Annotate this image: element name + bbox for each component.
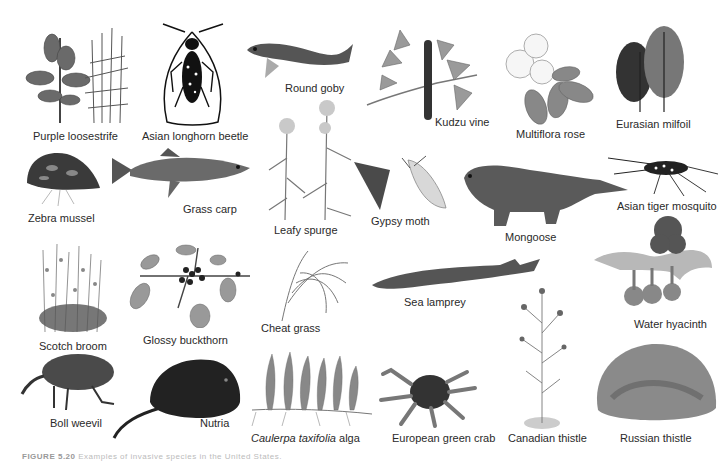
leafy-spurge-illustration [263,98,358,223]
figure-caption: FIGURE 5.20 Examples of invasive species… [22,452,282,461]
round-goby-illustration [245,38,355,83]
species-label: Water hyacinth [634,318,707,331]
figure-number: FIGURE 5.20 [22,452,76,461]
species-label: Eurasian milfoil [616,118,691,131]
species-label: Grass carp [183,203,237,216]
russian-thistle-illustration [592,338,720,426]
species-label: Cheat grass [261,322,320,335]
scotch-broom-illustration [35,240,110,335]
caption-text: Examples of invasive species in the Unit… [78,452,282,461]
purple-loosestrife-illustration [10,18,130,126]
asian-tiger-mosquito-illustration [606,144,721,199]
asian-longhorn-beetle-illustration [155,22,230,127]
species-label: Kudzu vine [435,116,489,129]
boll-weevil-illustration [18,350,118,412]
species-label: Purple loosestrife [33,130,118,143]
species-label: Caulerpa taxifolia alga [251,432,360,445]
zebra-mussel-illustration [22,148,102,208]
species-label-italic: Caulerpa taxifolia [251,432,336,444]
glossy-buckthorn-illustration [128,238,253,328]
species-label: Round goby [285,82,344,95]
species-label: European green crab [392,432,495,445]
caulerpa-taxifolia-alga-illustration [246,350,376,428]
species-label: Mongoose [505,231,556,244]
multiflora-rose-illustration [496,22,596,127]
water-hyacinth-illustration [590,210,715,310]
gypsy-moth-illustration [350,150,450,212]
grass-carp-illustration [110,148,252,200]
species-label: Canadian thistle [508,432,587,445]
species-label: Zebra mussel [28,212,95,225]
species-label: Sea lamprey [404,296,466,309]
cheat-grass-illustration [278,243,353,323]
european-green-crab-illustration [375,352,480,430]
eurasian-milfoil-illustration [612,22,692,114]
canadian-thistle-illustration [510,283,580,431]
species-label: Gypsy moth [371,215,430,228]
species-label: Multiflora rose [516,128,585,141]
species-label: Asian longhorn beetle [142,130,248,143]
species-label: Glossy buckthorn [143,334,228,347]
species-label: Russian thistle [620,432,692,445]
species-label-rest: alga [336,432,360,444]
kudzu-vine-illustration [362,15,482,130]
species-label: Nutria [200,417,229,430]
species-label: Boll weevil [50,417,102,430]
species-label: Leafy spurge [274,224,338,237]
